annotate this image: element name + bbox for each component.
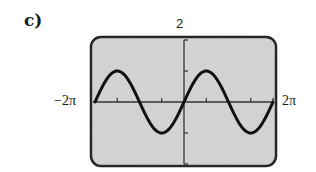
calculator-graph — [0, 0, 316, 172]
